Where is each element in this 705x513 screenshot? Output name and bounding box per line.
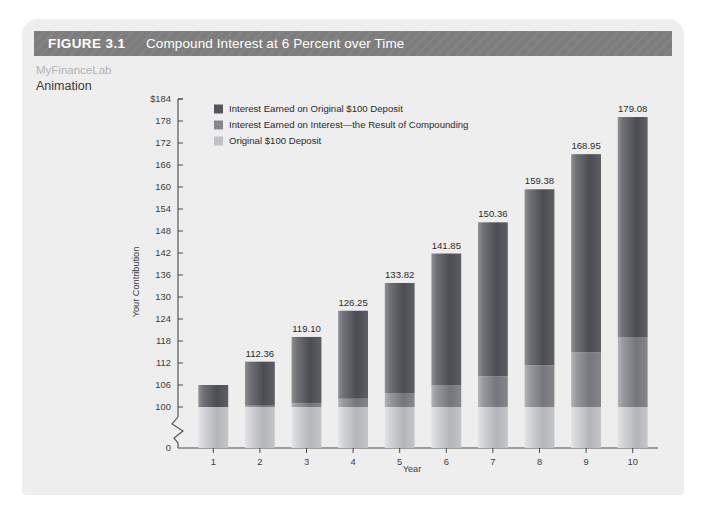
- bar-value-label: 119.10: [292, 323, 321, 334]
- bar-segment-interest-on-original: [338, 311, 368, 399]
- figure-number: FIGURE 3.1: [34, 36, 146, 51]
- bar-segment-interest-on-interest: [245, 406, 275, 407]
- bar-segment-interest-on-interest: [478, 376, 508, 407]
- bar-9[interactable]: [571, 154, 601, 448]
- x-tick-label: 4: [350, 456, 355, 467]
- bar-segment-original-deposit: [292, 407, 322, 448]
- bar-chart-svg: $184178172166160154148142136130124118112…: [130, 67, 675, 479]
- y-tick-label: 172: [155, 137, 171, 148]
- bar-segment-original-deposit: [245, 407, 275, 448]
- bar-segment-interest-on-original: [198, 385, 228, 407]
- bar-segment-interest-on-interest: [571, 352, 601, 407]
- y-tick-label: 106: [155, 379, 171, 390]
- bar-4[interactable]: [338, 311, 368, 448]
- bar-segment-interest-on-original: [385, 283, 415, 393]
- figure-caption: Compound Interest at 6 Percent over Time: [146, 36, 404, 51]
- y-tick-label: 124: [155, 313, 171, 324]
- y-tick-label: 148: [155, 225, 171, 236]
- bar-segment-original-deposit: [525, 407, 555, 448]
- bar-segment-interest-on-original: [525, 189, 555, 365]
- bar-segment-interest-on-original: [618, 117, 648, 337]
- y-tick-label: 154: [155, 203, 171, 214]
- bar-value-label: 133.82: [385, 269, 414, 280]
- bar-segment-interest-on-interest: [618, 337, 648, 407]
- bar-segment-original-deposit: [431, 407, 461, 448]
- y-tick-label: 166: [155, 159, 171, 170]
- margin-note: MyFinanceLab Animation: [36, 63, 140, 94]
- bar-segment-interest-on-interest: [431, 386, 461, 407]
- y-tick-label: 178: [155, 115, 171, 126]
- bar-value-label: 141.85: [432, 240, 461, 251]
- y-tick-label: $184: [150, 93, 171, 104]
- bar-6[interactable]: [431, 254, 461, 448]
- x-tick-label: 9: [583, 456, 588, 467]
- bar-segment-interest-on-original: [571, 154, 601, 352]
- x-axis-title: Year: [403, 464, 422, 474]
- legend-label: Original $100 Deposit: [229, 135, 322, 146]
- bar-segment-original-deposit: [571, 407, 601, 448]
- legend-swatch: [214, 121, 223, 130]
- y-tick-label: 130: [155, 291, 171, 302]
- x-tick-label: 5: [397, 456, 402, 467]
- bar-segment-interest-on-original: [431, 254, 461, 386]
- bar-segment-original-deposit: [618, 407, 648, 448]
- x-tick-label: 3: [304, 456, 309, 467]
- bar-8[interactable]: [525, 189, 555, 448]
- x-tick-label: 2: [257, 456, 262, 467]
- bar-value-label: 150.36: [478, 208, 507, 219]
- bar-value-label: 168.95: [571, 140, 600, 151]
- legend-swatch: [214, 137, 223, 146]
- bar-segment-original-deposit: [478, 407, 508, 448]
- bar-value-label: 159.38: [525, 175, 554, 186]
- y-tick-label-zero: 0: [166, 442, 171, 453]
- y-tick-label: 100: [155, 401, 171, 412]
- y-tick-label: 118: [156, 335, 171, 346]
- bar-segment-original-deposit: [198, 407, 228, 448]
- x-tick-label: 10: [627, 456, 637, 467]
- bar-7[interactable]: [478, 222, 508, 448]
- bar-segment-interest-on-interest: [338, 399, 368, 407]
- x-axis: 12345678910: [211, 448, 638, 467]
- figure-card: FIGURE 3.1 Compound Interest at 6 Percen…: [22, 19, 684, 495]
- bar-segment-original-deposit: [338, 407, 368, 448]
- bar-value-label: 126.25: [338, 297, 367, 308]
- bar-2[interactable]: [245, 362, 275, 448]
- chart-plot-area: $184178172166160154148142136130124118112…: [130, 67, 675, 479]
- y-tick-label: 142: [155, 247, 171, 258]
- y-tick-label: 160: [155, 181, 171, 192]
- bar-segment-interest-on-interest: [292, 403, 322, 407]
- bar-series-group: [198, 117, 647, 448]
- x-tick-label: 8: [537, 456, 542, 467]
- bar-segment-interest-on-original: [245, 362, 275, 406]
- legend-label: Interest Earned on Interest—the Result o…: [229, 119, 468, 130]
- bar-value-label: 179.08: [618, 103, 647, 114]
- animation-label: Animation: [36, 78, 140, 94]
- y-axis-title: Your Contribution: [131, 247, 141, 318]
- chart-legend: Interest Earned on Original $100 Deposit…: [214, 103, 468, 146]
- bar-segment-interest-on-interest: [525, 365, 555, 407]
- y-tick-label: 136: [155, 269, 171, 280]
- x-tick-label: 1: [211, 456, 216, 467]
- bar-10[interactable]: [618, 117, 648, 448]
- myfinancelab-brand: MyFinanceLab: [36, 63, 140, 78]
- bar-1[interactable]: [198, 385, 228, 448]
- bar-segment-interest-on-original: [478, 222, 508, 376]
- bar-value-label: 112.36: [246, 348, 275, 359]
- bar-5[interactable]: [385, 283, 415, 448]
- y-tick-label: 112: [156, 357, 171, 368]
- figure-header: FIGURE 3.1 Compound Interest at 6 Percen…: [34, 31, 672, 56]
- legend-label: Interest Earned on Original $100 Deposit: [229, 103, 403, 114]
- bar-segment-interest-on-interest: [385, 393, 415, 407]
- bar-3[interactable]: [292, 337, 322, 448]
- x-tick-label: 7: [490, 456, 495, 467]
- bar-segment-interest-on-original: [292, 337, 322, 403]
- bar-segment-original-deposit: [385, 407, 415, 448]
- legend-swatch: [214, 105, 223, 114]
- x-tick-label: 6: [444, 456, 449, 467]
